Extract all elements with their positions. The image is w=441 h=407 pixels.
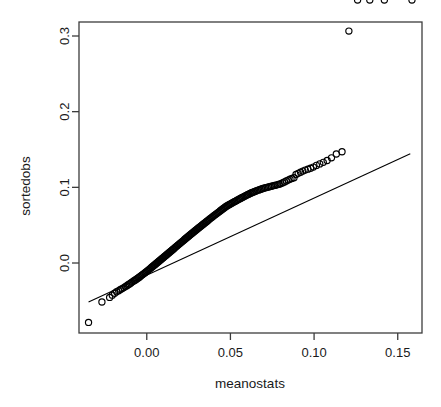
y-tick-label: 0.3	[58, 27, 73, 45]
y-axis-tick-marks	[72, 36, 79, 263]
data-point	[381, 0, 387, 3]
data-point	[354, 0, 360, 3]
qq-reference-line	[89, 154, 411, 302]
data-point	[409, 0, 415, 3]
y-tick-label: 0.0	[58, 254, 73, 272]
x-tick-label: 0.15	[385, 345, 410, 360]
data-points-group	[85, 0, 415, 326]
chart-canvas: 0.000.050.100.15 0.00.10.20.3 meanostats…	[0, 0, 441, 407]
x-axis-tick-labels: 0.000.050.100.15	[134, 345, 410, 360]
data-point	[339, 149, 345, 155]
x-axis-title: meanostats	[215, 376, 285, 391]
y-axis-tick-labels: 0.00.10.20.3	[58, 27, 73, 272]
x-tick-label: 0.05	[218, 345, 243, 360]
data-point	[99, 299, 105, 305]
x-tick-label: 0.10	[301, 345, 326, 360]
qq-plot-figure: 0.000.050.100.15 0.00.10.20.3 meanostats…	[0, 0, 441, 407]
y-tick-label: 0.1	[58, 178, 73, 196]
x-axis-tick-marks	[147, 333, 398, 340]
y-tick-label: 0.2	[58, 103, 73, 121]
data-point	[367, 0, 373, 3]
data-point	[346, 28, 352, 34]
y-axis-title: sortedobs	[18, 156, 33, 216]
x-tick-label: 0.00	[134, 345, 159, 360]
data-point	[85, 319, 91, 325]
